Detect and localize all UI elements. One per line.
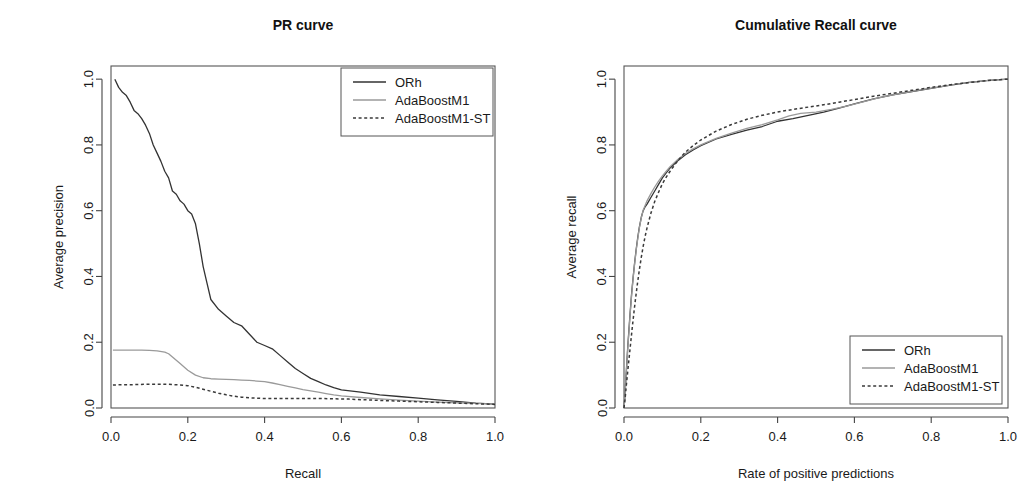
legend-label-adaboostm1: AdaBoostM1 [395, 93, 469, 108]
y-tick-label: 0.0 [82, 399, 97, 417]
legend-label-orh: ORh [395, 75, 422, 90]
legend-label-adaboostm1: AdaBoostM1 [904, 361, 978, 376]
y-axis-label: Average precision [51, 185, 66, 289]
x-tick-label: 0.0 [102, 429, 120, 444]
x-tick-label: 1.0 [999, 429, 1017, 444]
y-tick-label: 0.6 [595, 202, 610, 220]
x-tick-label: 0.6 [845, 429, 863, 444]
y-tick-label: 0.2 [82, 333, 97, 351]
y-tick-label: 0.0 [595, 399, 610, 417]
chart-title: PR curve [273, 17, 334, 33]
chart-title: Cumulative Recall curve [735, 17, 897, 33]
x-tick-label: 0.6 [332, 429, 350, 444]
y-tick-label: 0.8 [595, 136, 610, 154]
series-line-adaboostm1-st [113, 384, 495, 404]
x-tick-label: 1.0 [486, 429, 504, 444]
figure-root: PR curve0.00.20.40.60.81.0Recall0.00.20.… [0, 0, 1026, 504]
x-tick-label: 0.0 [615, 429, 633, 444]
x-tick-label: 0.8 [922, 429, 940, 444]
pr-curve-svg: PR curve0.00.20.40.60.81.0Recall0.00.20.… [0, 0, 513, 504]
y-axis-label: Average recall [564, 195, 579, 278]
legend-label-orh: ORh [904, 343, 931, 358]
x-tick-label: 0.2 [179, 429, 197, 444]
x-axis-label: Recall [285, 466, 321, 481]
legend-label-adaboostm1-st: AdaBoostM1-ST [904, 379, 999, 394]
y-tick-label: 0.4 [595, 267, 610, 285]
y-tick-label: 0.4 [82, 267, 97, 285]
y-tick-label: 1.0 [595, 70, 610, 88]
y-tick-label: 0.6 [82, 202, 97, 220]
x-tick-label: 0.4 [769, 429, 787, 444]
cumulative-recall-curve-svg: Cumulative Recall curve0.00.20.40.60.81.… [513, 0, 1026, 504]
x-tick-label: 0.4 [256, 429, 274, 444]
legend: ORhAdaBoostM1AdaBoostM1-ST [341, 68, 493, 136]
series-line-adaboostm1 [113, 350, 495, 404]
legend: ORhAdaBoostM1AdaBoostM1-ST [850, 336, 1002, 404]
panel-cumulative-recall-curve: Cumulative Recall curve0.00.20.40.60.81.… [513, 0, 1026, 504]
x-axis-label: Rate of positive predictions [738, 466, 895, 481]
x-tick-label: 0.2 [692, 429, 710, 444]
x-tick-label: 0.8 [409, 429, 427, 444]
y-tick-label: 0.2 [595, 333, 610, 351]
panel-pr-curve: PR curve0.00.20.40.60.81.0Recall0.00.20.… [0, 0, 513, 504]
y-tick-label: 0.8 [82, 136, 97, 154]
legend-label-adaboostm1-st: AdaBoostM1-ST [395, 111, 490, 126]
y-tick-label: 1.0 [82, 70, 97, 88]
